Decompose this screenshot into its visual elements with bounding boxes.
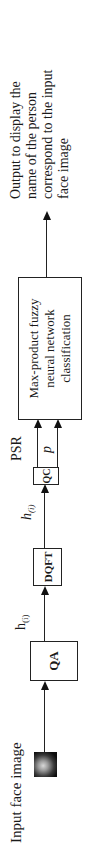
output-line-1: Output to display the [8, 70, 24, 199]
arrow-p-to-classifier [57, 427, 58, 467]
classifier-line-1: Max-product fuzzy [26, 299, 42, 399]
arrowhead-icon [34, 419, 42, 428]
arrowhead-icon [41, 586, 49, 595]
arrow-qa-to-dqft [44, 594, 45, 641]
dqft-label: DQFT [42, 552, 54, 583]
output-line-4: face image [56, 70, 72, 199]
arrow-psr-to-classifier [37, 427, 38, 467]
psr-label: PSR [10, 436, 24, 461]
arrow-dqft-to-qc [44, 492, 45, 548]
input-face-image-label: Input face image [9, 742, 24, 843]
output-description: Output to display the name of the person… [8, 70, 72, 199]
arrow-classifier-to-output [46, 219, 47, 277]
edge-label-h-i-2: h(i) [20, 505, 36, 521]
edge-label-h-i-1: h(i) [14, 615, 30, 631]
p-label: p [40, 446, 54, 453]
output-line-3: correspond to the input [40, 70, 56, 199]
qa-block: QA [30, 641, 78, 681]
arrow-face-to-qa [44, 689, 45, 752]
output-line-2: name of the person [24, 70, 40, 199]
arrowhead-icon [43, 211, 51, 220]
input-face-thumbnail [34, 752, 57, 777]
arrowhead-icon [41, 681, 49, 690]
fuzzy-neural-network-classifier-block: Max-product fuzzy neural network classif… [18, 277, 82, 420]
classifier-line-2: neural network [42, 309, 58, 387]
classifier-line-3: classification [58, 314, 74, 383]
qc-label: QC [41, 469, 52, 484]
block-diagram: Input face image QA h(i) DQFT h(i) QC PS… [0, 0, 93, 851]
arrowhead-icon [41, 484, 49, 493]
dqft-block: DQFT [33, 548, 62, 586]
qc-block: QC [33, 467, 59, 485]
arrowhead-icon [54, 419, 62, 428]
qa-label: QA [46, 651, 62, 671]
